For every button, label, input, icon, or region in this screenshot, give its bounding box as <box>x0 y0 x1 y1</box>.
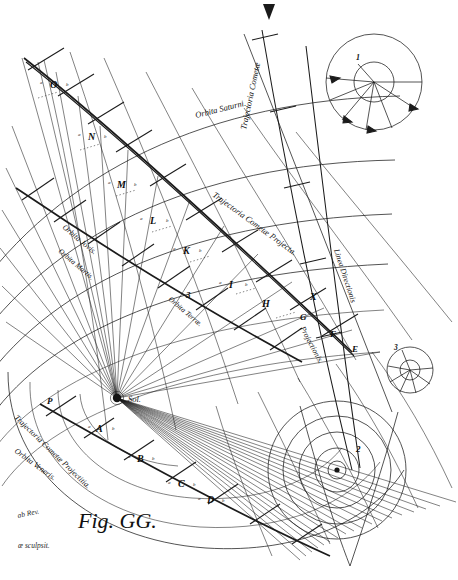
trajectory-letter-E: E <box>351 344 358 354</box>
figure-caption: Fig. GG. <box>77 508 157 533</box>
paper-background <box>0 0 458 580</box>
inset-1-number: 1 <box>356 53 360 62</box>
trajectory-letter-N: N <box>87 131 96 142</box>
engraving-plate: Sol. 1 <box>0 0 458 580</box>
engraver-signature: æ sculpsit. <box>18 541 50 550</box>
trajectory-letter-C: C <box>178 478 185 489</box>
scale-numeral-3: 3 <box>185 290 191 300</box>
trajectory-letter-H: H <box>261 298 271 309</box>
inset-2-number: 2 <box>355 444 361 454</box>
astronomical-diagram: Sol. 1 <box>0 0 458 580</box>
trajectory-letter-K: K <box>182 245 191 256</box>
inset-3-number: 3 <box>393 343 398 352</box>
trajectory-letter-L: L <box>149 215 156 226</box>
trajectory-letter-O: O <box>50 79 57 90</box>
trajectory-letter-M: M <box>116 179 127 190</box>
trajectory-letter-G: G <box>300 312 307 322</box>
trajectory-letter-F: F <box>329 329 336 339</box>
trajectory-letter-A: A <box>95 423 103 434</box>
trajectory-letter-D: D <box>206 494 214 505</box>
sol-label: Sol. <box>128 394 141 404</box>
trajectory-letter-X: X <box>309 291 317 302</box>
trajectory-letter-B: B <box>136 453 144 464</box>
trajectory-letter-P: P <box>47 396 53 406</box>
